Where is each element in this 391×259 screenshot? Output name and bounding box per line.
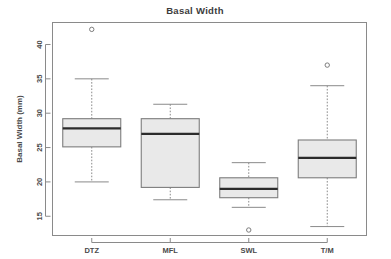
y-tick-label: 20 <box>36 178 45 186</box>
y-tick-label: 25 <box>36 143 45 151</box>
boxplot-figure: Basal Width Basal Width (mm) 15202530354… <box>0 0 391 259</box>
boxplot-canvas: Basal Width Basal Width (mm) 15202530354… <box>0 0 391 259</box>
box-body <box>141 119 199 188</box>
y-tick-label: 40 <box>36 40 45 48</box>
x-tick-label-dtz: DTZ <box>84 246 99 255</box>
box-mfl <box>141 104 199 200</box>
x-tick-label-mfl: MFL <box>163 246 179 255</box>
y-tick-label: 35 <box>36 75 45 83</box>
box-body <box>63 119 121 147</box>
y-axis-label: Basal Width (mm) <box>15 95 24 163</box>
x-tick-label-t-m: T/M <box>321 246 334 255</box>
chart-title: Basal Width <box>166 5 224 16</box>
x-tick-label-swl: SWL <box>240 246 257 255</box>
y-tick-label: 30 <box>36 109 45 117</box>
y-tick-label: 15 <box>36 212 45 220</box>
